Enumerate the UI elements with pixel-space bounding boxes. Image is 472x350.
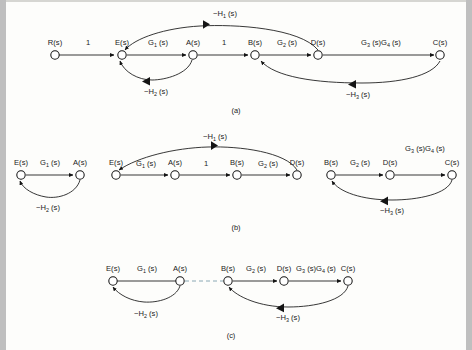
- branch-label-a-H3: −H3 (s): [346, 90, 370, 100]
- branch-label-b2-H1: −H1 (s): [203, 132, 227, 142]
- node-b1-A[interactable]: [76, 171, 84, 179]
- caption-a: (a): [231, 106, 240, 115]
- caption-b: (b): [231, 223, 240, 232]
- node-a-C[interactable]: [436, 51, 444, 59]
- branch-label-c-H2: −H2 (s): [134, 309, 158, 319]
- node-label-b2-A: A(s): [168, 158, 182, 167]
- branch-label-b2-unity: 1: [204, 159, 208, 168]
- branch-label-b1-G1: G1 (s): [40, 158, 60, 168]
- edge-b1-A-to-E-H2-right: [46, 180, 80, 197]
- edge-c-A-to-E-H2-left: [113, 287, 144, 302]
- node-b3-D[interactable]: [386, 171, 394, 179]
- node-a-D[interactable]: [314, 51, 322, 59]
- edge-b2-D-to-E-H1-left: [119, 147, 208, 170]
- node-label-b3-D: D(s): [383, 158, 398, 167]
- node-c-C[interactable]: [344, 277, 352, 285]
- node-label-a-A: A(s): [186, 38, 200, 47]
- node-a-E[interactable]: [118, 51, 126, 59]
- branch-label-a-G1: G1 (s): [148, 38, 168, 48]
- node-a-R[interactable]: [51, 51, 59, 59]
- node-label-b2-D: D(s): [290, 158, 305, 167]
- arrowhead-c-H3-mid: [276, 304, 284, 313]
- branch-label-a-unity-2: 1: [222, 38, 226, 47]
- arrowhead-a-H3-mid: [348, 80, 356, 89]
- branch-label-c-G3G4: G3 (s)G4 (s): [296, 264, 336, 274]
- node-b2-D[interactable]: [293, 171, 301, 179]
- panel-b: E(s) A(s) G1 (s) −H2 (s) E(s) A(s) B(s) …: [14, 132, 460, 232]
- node-label-b2-E: E(s): [109, 158, 123, 167]
- node-label-a-B: B(s): [248, 38, 262, 47]
- arrowhead-b3-H3-mid: [380, 197, 388, 206]
- branch-label-b1-H2: −H2 (s): [36, 203, 60, 213]
- edge-b3-C-to-B-H3-left: [332, 181, 392, 200]
- node-label-c-C: C(s): [341, 264, 356, 273]
- edge-c-C-to-B-H3-right: [288, 286, 348, 307]
- branch-label-a-H1: −H1 (s): [213, 9, 237, 19]
- branch-label-c-G1: G1 (s): [137, 264, 157, 274]
- caption-c: (c): [227, 331, 236, 340]
- node-label-a-D: D(s): [311, 38, 326, 47]
- panel-c: E(s) A(s) B(s) D(s) C(s) G1 (s) G2 (s) G…: [106, 264, 356, 340]
- node-b1-E[interactable]: [17, 171, 25, 179]
- node-label-b1-A: A(s): [73, 158, 87, 167]
- node-b3-B[interactable]: [327, 171, 335, 179]
- edge-b1-A-to-E-H2-left: [20, 181, 46, 197]
- node-label-c-A: A(s): [173, 264, 187, 273]
- node-label-b3-C: C(s): [445, 158, 460, 167]
- node-b2-E[interactable]: [112, 171, 120, 179]
- arrowhead-b2-H1-mid: [211, 141, 218, 150]
- node-label-a-R: R(s): [48, 38, 63, 47]
- node-label-b3-B: B(s): [324, 158, 338, 167]
- node-c-E[interactable]: [109, 277, 117, 285]
- branch-label-c-G2: G2 (s): [246, 264, 266, 274]
- node-c-A[interactable]: [176, 277, 184, 285]
- branch-label-b3-G2: G2 (s): [350, 158, 370, 168]
- branch-label-b2-G1: G1 (s): [136, 159, 156, 169]
- node-b2-A[interactable]: [171, 171, 179, 179]
- edge-b2-D-to-E-H1-right: [208, 147, 297, 170]
- edge-b3-C-to-B-H3-right: [392, 180, 452, 200]
- node-label-b1-E: E(s): [14, 158, 28, 167]
- branch-label-a-G3G4: G3 (s)G4 (s): [361, 38, 401, 48]
- node-label-a-E: E(s): [115, 38, 129, 47]
- signal-flow-graph-canvas: R(s) E(s) A(s) B(s) D(s) C(s) 1 1 G1 (s)…: [0, 0, 472, 350]
- edge-a-A-to-E-H2-left: [120, 61, 152, 80]
- branch-label-a-G2: G2 (s): [277, 38, 297, 48]
- edge-a-A-to-E-H2-right: [152, 60, 192, 80]
- edge-c-A-to-E-H2-right: [144, 286, 180, 302]
- node-c-B[interactable]: [224, 277, 232, 285]
- edge-a-C-to-B-H3-left: [261, 61, 362, 83]
- node-c-D[interactable]: [280, 277, 288, 285]
- branch-label-a-H2: −H2 (s): [144, 87, 168, 97]
- branch-label-a-unity-1: 1: [86, 38, 90, 47]
- branch-label-b2-G2: G2 (s): [258, 159, 278, 169]
- branch-label-c-H3: −H3 (s): [276, 313, 300, 323]
- node-label-c-D: D(s): [277, 264, 292, 273]
- panel-a: R(s) E(s) A(s) B(s) D(s) C(s) 1 1 G1 (s)…: [48, 9, 448, 115]
- node-a-A[interactable]: [189, 51, 197, 59]
- branch-label-b3-H3: −H3 (s): [380, 206, 404, 216]
- node-label-c-B: B(s): [221, 264, 235, 273]
- node-label-b2-B: B(s): [230, 158, 244, 167]
- node-a-B[interactable]: [251, 51, 259, 59]
- node-b3-C[interactable]: [448, 171, 456, 179]
- node-label-a-C: C(s): [433, 38, 448, 47]
- node-b2-B[interactable]: [233, 171, 241, 179]
- arrowhead-a-H1-mid: [203, 20, 210, 29]
- figure-page: R(s) E(s) A(s) B(s) D(s) C(s) 1 1 G1 (s)…: [0, 0, 472, 350]
- node-label-c-E: E(s): [106, 264, 120, 273]
- edge-c-C-to-B-H3-left: [229, 287, 288, 307]
- branch-label-b3-G3G4: G3 (s)G4 (s): [405, 144, 445, 154]
- edge-a-C-to-B-H3-right: [362, 61, 440, 83]
- arrowhead-a-H2-mid: [142, 77, 150, 86]
